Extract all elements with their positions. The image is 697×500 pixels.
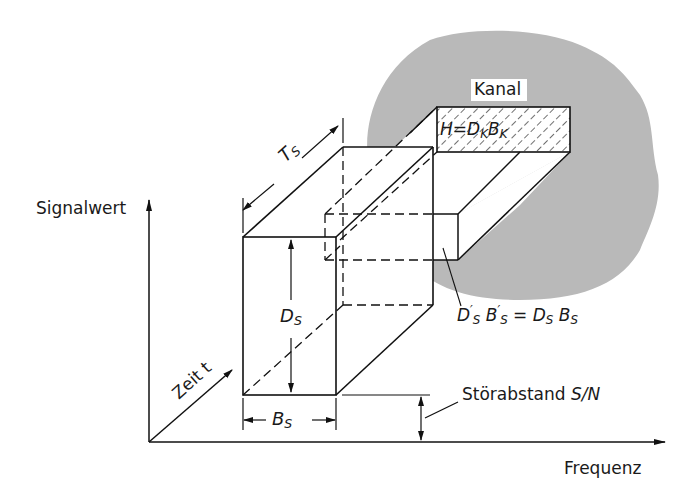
x-axis-label: Frequenz — [564, 458, 641, 478]
signal-channel-diagram: Kanal H=DKBK Signalwert Frequenz Zeit t … — [0, 0, 697, 500]
transformed-equation: D′S B′S = DS BS — [457, 303, 578, 327]
bandwidth-label: BS — [272, 408, 292, 431]
y-axis-label: Signalwert — [36, 198, 126, 218]
diagram-drawing — [0, 0, 697, 500]
channel-formula: H=DKBK — [440, 119, 507, 141]
noise-margin-label: Störabstand S/N — [462, 384, 600, 404]
channel-label: Kanal — [474, 79, 521, 99]
dynamic-label: DS — [280, 305, 302, 328]
